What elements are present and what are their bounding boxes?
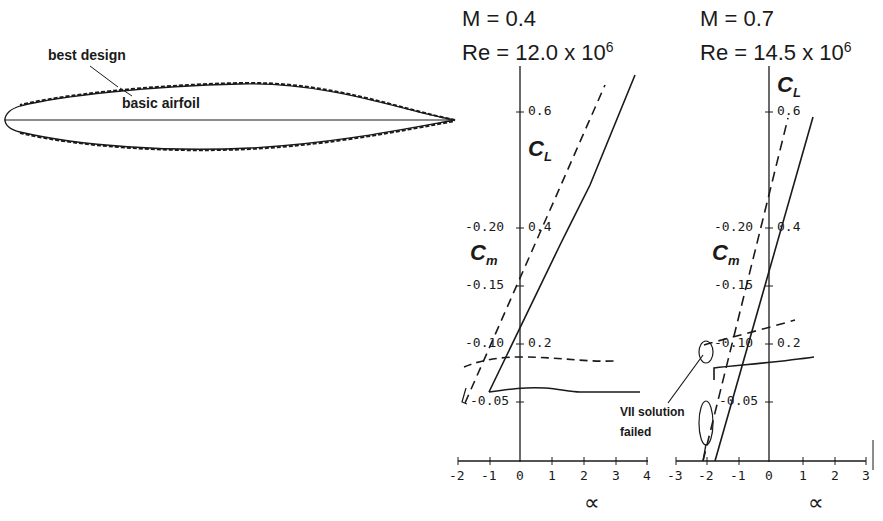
- right-x-tick: -1: [730, 468, 746, 483]
- right-cm-basic-solid: [714, 357, 814, 380]
- right-chart-axes: [676, 66, 873, 470]
- left-cm-tick-0.20: -0.20: [465, 219, 504, 234]
- left-re-exponent: 6: [606, 39, 614, 55]
- left-re-title: Re = 12.0 x 106: [462, 34, 614, 66]
- right-mach-title: M = 0.7: [700, 6, 774, 32]
- left-x-tick: 1: [548, 468, 556, 483]
- left-cl-axis-label: CL: [528, 136, 552, 164]
- right-cl-axis-label: CL: [777, 72, 801, 100]
- failed-ellipse-lower: [699, 401, 713, 445]
- left-x-tick: 2: [580, 468, 588, 483]
- best-design-label: best design: [48, 47, 126, 63]
- figure-graphics: [0, 0, 883, 521]
- right-re-text: Re = 14.5 x 10: [700, 40, 844, 65]
- right-re-title: Re = 14.5 x 106: [700, 34, 852, 66]
- right-cm-tick-0.20: -0.20: [714, 219, 753, 234]
- left-cl-tick-0.6: 0.6: [528, 103, 551, 118]
- right-cm-tick-0.10: -0.10: [714, 335, 753, 350]
- right-cl-tick-0.2: 0.2: [777, 335, 800, 350]
- right-x-tick: -3: [667, 468, 683, 483]
- best-design-outline: [20, 83, 455, 150]
- failed-label: failed: [620, 425, 651, 439]
- left-cm-tick-0.10: -0.10: [465, 335, 504, 350]
- best-design-leader: [90, 66, 118, 87]
- left-x-tick: -2: [449, 468, 465, 483]
- left-cl-basic-solid: [489, 75, 635, 392]
- left-x-tick: -1: [481, 468, 497, 483]
- right-x-tick: 2: [831, 468, 839, 483]
- right-x-tick: 1: [799, 468, 807, 483]
- left-alpha-label: ∝: [584, 490, 600, 516]
- right-x-tick: 0: [765, 468, 773, 483]
- left-cl-tick-0.2: 0.2: [528, 335, 551, 350]
- left-cm-best-dashed: [464, 357, 615, 367]
- vii-solution-label: VII solution: [620, 405, 685, 419]
- right-cl-tick-0.4: 0.4: [777, 219, 800, 234]
- left-cm-axis-label: Cm: [470, 240, 497, 268]
- right-x-tick: -2: [698, 468, 714, 483]
- right-cm-tick-0.15: -0.15: [714, 277, 753, 292]
- right-cm-tick-0.05: -0.05: [719, 393, 758, 408]
- left-re-text: Re = 12.0 x 10: [462, 40, 606, 65]
- left-cl-tick-0.4: 0.4: [528, 219, 551, 234]
- left-cm-tick-0.15: -0.15: [465, 277, 504, 292]
- right-x-tick: 3: [862, 468, 870, 483]
- right-cm-axis-label: Cm: [712, 240, 739, 268]
- right-re-exponent: 6: [844, 39, 852, 55]
- basic-airfoil-outline: [5, 84, 455, 149]
- left-x-tick: 3: [612, 468, 620, 483]
- left-cm-basic-solid: [489, 388, 640, 392]
- left-mach-title: M = 0.4: [462, 6, 536, 32]
- right-cl-tick-0.6: 0.6: [777, 103, 800, 118]
- left-cm-tick-0.05: -0.05: [470, 393, 509, 408]
- left-x-tick: 4: [643, 468, 651, 483]
- left-x-tick: 0: [516, 468, 524, 483]
- basic-airfoil-label: basic airfoil: [122, 95, 200, 111]
- annotation-leader: [668, 355, 703, 403]
- airfoil-drawing: [4, 66, 455, 150]
- right-alpha-label: ∝: [808, 490, 824, 516]
